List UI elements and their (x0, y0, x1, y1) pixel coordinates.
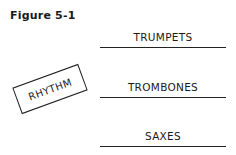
rhythm-label: RHYTHM (27, 76, 73, 102)
section-label: SAXES (100, 130, 226, 142)
section-trombones: TROMBONES (100, 81, 226, 98)
section-trumpets: TRUMPETS (100, 31, 226, 48)
section-label: TRUMPETS (100, 31, 226, 43)
section-line (100, 47, 226, 48)
section-label: TROMBONES (100, 81, 226, 93)
section-line (100, 97, 226, 98)
section-saxes: SAXES (100, 130, 226, 147)
rhythm-box: RHYTHM (12, 64, 87, 114)
figure-title: Figure 5-1 (10, 9, 76, 22)
section-line (100, 146, 226, 147)
